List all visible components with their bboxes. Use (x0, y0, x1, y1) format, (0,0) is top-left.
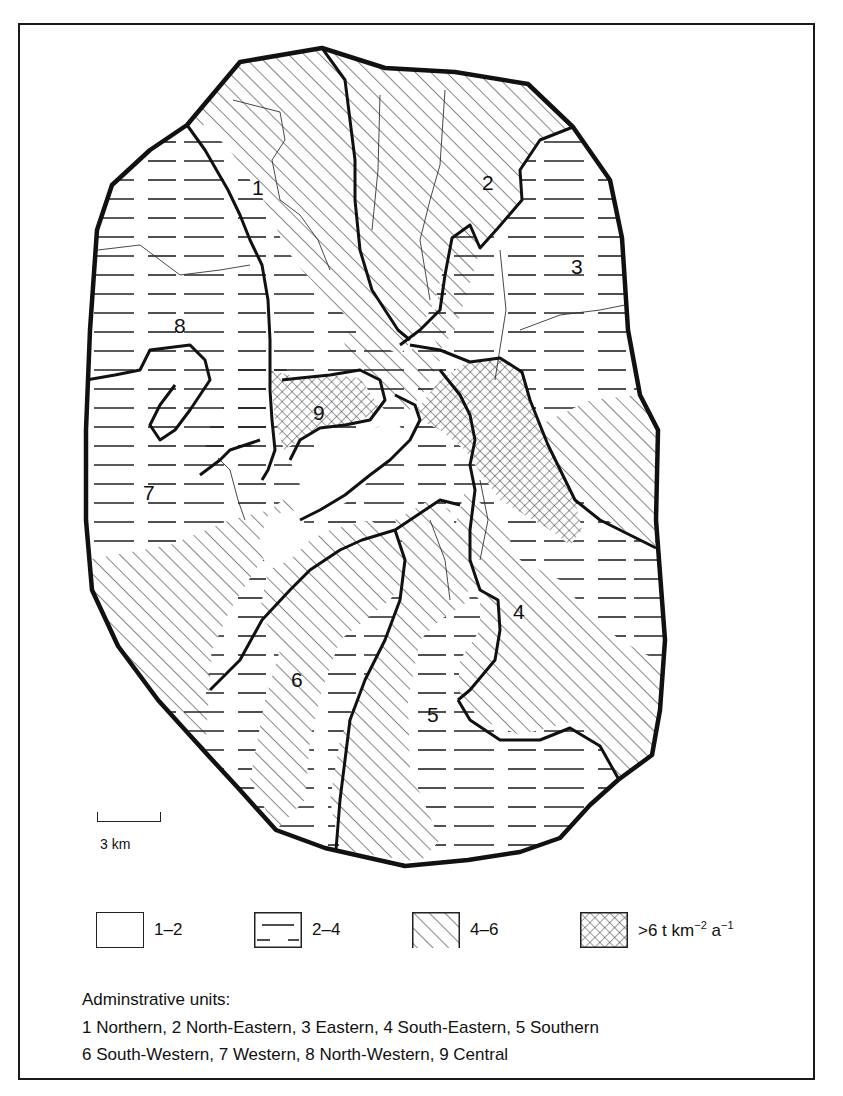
legend-unit-exp1: −2 (694, 919, 707, 931)
region-label-6: 6 (291, 668, 303, 691)
units-title: Adminstrative units: (82, 990, 230, 1010)
legend-unit-exp2: −1 (721, 919, 734, 931)
region-label-5: 5 (427, 703, 439, 726)
region-label-2: 2 (482, 171, 494, 194)
legend-unit-prefix: >6 t km (638, 921, 694, 940)
legend-unit-mid: a (707, 921, 721, 940)
scale-bar-label: 3 km (100, 836, 130, 852)
region-label-4: 4 (513, 600, 525, 623)
legend-label: >6 t km−2 a−1 (638, 919, 734, 941)
units-line-1: 1 Northern, 2 North-Eastern, 3 Eastern, … (82, 1018, 599, 1038)
legend-item-1-2: 1–2 (96, 912, 182, 948)
legend-item-4-6: 4–6 (412, 912, 498, 948)
legend-item-2-4: 2–4 (254, 912, 340, 948)
crosshatch-swatch-icon (580, 912, 628, 948)
legend-label: 1–2 (154, 920, 182, 940)
legend-item-over-6: >6 t km−2 a−1 (580, 912, 734, 948)
hatch-swatch-icon (412, 912, 460, 948)
erosion-map: 1 2 3 4 5 6 7 8 9 (0, 0, 843, 900)
blank-swatch-icon (96, 912, 144, 948)
region-label-8: 8 (174, 314, 186, 337)
region-label-1: 1 (252, 176, 264, 199)
legend-label: 2–4 (312, 920, 340, 940)
legend: 1–2 2–4 4–6 >6 t km−2 a−1 (96, 912, 796, 952)
map-regions (0, 0, 843, 900)
region-label-7: 7 (143, 481, 155, 504)
scale-bar (97, 812, 161, 822)
legend-label: 4–6 (470, 920, 498, 940)
region-label-9: 9 (313, 401, 325, 424)
units-line-2: 6 South-Western, 7 Western, 8 North-West… (82, 1045, 508, 1065)
region-label-3: 3 (571, 255, 583, 278)
dash-swatch-icon (254, 912, 302, 948)
